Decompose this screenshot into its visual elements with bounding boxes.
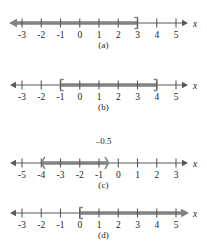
axis-variable-label-b: x (192, 81, 198, 91)
tick-label: 3 (135, 30, 140, 40)
tick-label: 0 (77, 220, 82, 230)
tick-label: 2 (154, 170, 159, 180)
number-line-panel-b: -3-2-1012345x(b) (0, 68, 207, 112)
axis-left-arrow-c (10, 160, 16, 166)
tick-label: -1 (95, 170, 103, 180)
panel-caption-a: (a) (0, 40, 207, 50)
tick-label: 1 (135, 170, 140, 180)
axis-right-arrow-a (182, 20, 188, 26)
tick-label: -2 (37, 220, 45, 230)
tick-label: 5 (174, 220, 179, 230)
panel-caption-d: (d) (0, 230, 207, 240)
tick-label: -3 (57, 170, 65, 180)
tick-label: 3 (135, 92, 140, 102)
tick-label: 5 (174, 92, 179, 102)
number-line-axis-c: -5-4-3-2-10123x (0, 146, 207, 180)
tick-label: 2 (116, 92, 121, 102)
panel-caption-b: (b) (0, 102, 207, 112)
point-label-c: –0.5 (0, 136, 207, 146)
axis-left-arrow-b (10, 82, 16, 88)
tick-label: -2 (37, 30, 45, 40)
number-line-axis-a: -3-2-1012345x (0, 6, 207, 40)
axis-left-arrow-d (10, 210, 16, 216)
tick-label: 5 (174, 30, 179, 40)
axis-right-arrow-b (182, 82, 188, 88)
tick-label: 2 (116, 220, 121, 230)
tick-label: -3 (18, 30, 26, 40)
axis-variable-label-c: x (192, 159, 198, 169)
tick-label: -1 (57, 92, 65, 102)
tick-label: -1 (57, 220, 65, 230)
axis-variable-label-a: x (192, 19, 198, 29)
number-line-axis-d: -3-2-1012345x (0, 196, 207, 230)
tick-label: -1 (57, 30, 65, 40)
tick-label: 0 (116, 170, 121, 180)
tick-label: 3 (174, 170, 179, 180)
interval-right-arrow-d (181, 209, 189, 218)
axis-right-arrow-c (182, 160, 188, 166)
tick-label: 2 (116, 30, 121, 40)
tick-label: 0 (77, 30, 82, 40)
tick-label: 4 (154, 220, 159, 230)
number-line-panel-a: -3-2-1012345x(a) (0, 6, 207, 50)
tick-label: 1 (97, 220, 102, 230)
tick-label: -2 (37, 92, 45, 102)
tick-label: 1 (97, 92, 102, 102)
tick-label: -3 (18, 220, 26, 230)
tick-label: -2 (76, 170, 84, 180)
number-line-panel-d: -3-2-1012345x(d) (0, 196, 207, 240)
tick-label: -5 (18, 170, 26, 180)
interval-left-arrow-a (9, 19, 17, 28)
tick-label: 0 (77, 92, 82, 102)
number-line-axis-b: -3-2-1012345x (0, 68, 207, 102)
number-line-panel-c: –0.5-5-4-3-2-10123x(c) (0, 136, 207, 190)
tick-label: -4 (37, 170, 45, 180)
panel-caption-c: (c) (0, 180, 207, 190)
tick-label: -3 (18, 92, 26, 102)
tick-label: 3 (135, 220, 140, 230)
axis-variable-label-d: x (192, 209, 198, 219)
tick-label: 4 (154, 30, 159, 40)
tick-label: 4 (154, 92, 159, 102)
tick-label: 1 (97, 30, 102, 40)
